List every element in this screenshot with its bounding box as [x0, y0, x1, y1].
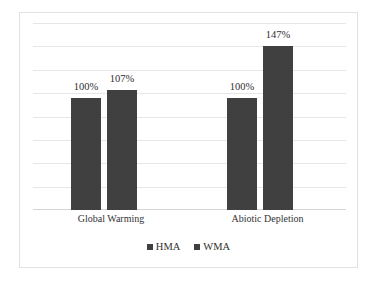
bar-value-label: 100% — [74, 82, 99, 93]
bar-hma-global-warming[interactable] — [71, 98, 101, 210]
square-marker-icon — [194, 244, 200, 250]
legend-label: HMA — [156, 242, 181, 253]
category-label-global-warming: Global Warming — [33, 213, 189, 224]
bar-value-label: 100% — [230, 82, 255, 93]
bar-hma-abiotic-depletion[interactable] — [227, 98, 257, 210]
legend-label: WMA — [203, 242, 230, 253]
plot-area: 100% 107% 100% 147% — [33, 23, 346, 210]
bar-wma-abiotic-depletion[interactable] — [263, 46, 293, 210]
square-marker-icon — [147, 244, 153, 250]
legend-item-hma[interactable]: HMA — [147, 242, 181, 253]
chart-legend: HMA WMA — [20, 242, 357, 253]
legend-item-wma[interactable]: WMA — [194, 242, 230, 253]
bar-wma-global-warming[interactable] — [107, 90, 137, 210]
bar-value-label: 147% — [266, 30, 291, 41]
chart-frame: 100% 107% 100% 147% — [19, 12, 358, 268]
bar-group-abiotic-depletion: 100% 147% — [189, 23, 346, 210]
bar-group-global-warming: 100% 107% — [33, 23, 189, 210]
bars-layer: 100% 107% 100% 147% — [33, 23, 346, 210]
bar-value-label: 107% — [110, 74, 135, 85]
category-label-abiotic-depletion: Abiotic Depletion — [189, 213, 346, 224]
